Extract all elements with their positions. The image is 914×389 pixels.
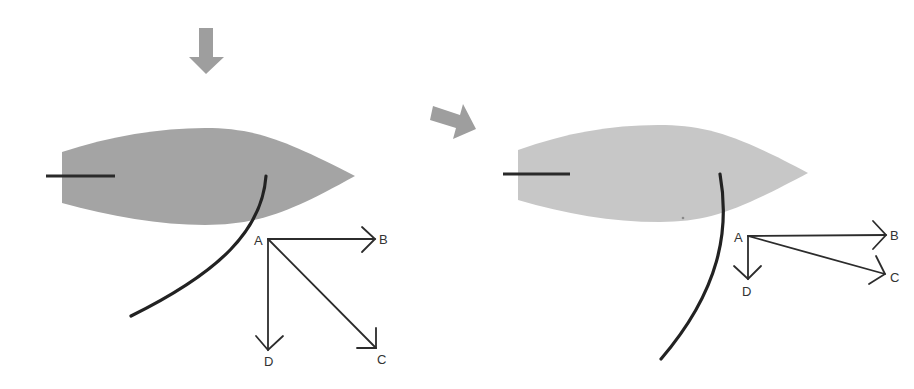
vector-diagram-after: A B C D: [734, 221, 899, 299]
vector-ab: [748, 235, 886, 236]
label-a: A: [254, 233, 263, 248]
label-d: D: [264, 354, 273, 369]
label-c: C: [377, 352, 386, 367]
label-b: B: [379, 232, 388, 247]
speck: [682, 217, 685, 220]
label-a: A: [734, 230, 743, 245]
label-d: D: [742, 284, 751, 299]
vector-ac: [748, 236, 885, 274]
panel-before: A B C D: [46, 28, 388, 369]
label-c: C: [890, 270, 899, 285]
diagram-canvas: A B C D A B C D: [0, 0, 914, 389]
panel-after: A B C D: [503, 125, 899, 359]
arrowhead-d: [256, 336, 283, 350]
down-arrow-icon: [189, 28, 224, 74]
vector-ac: [268, 239, 376, 348]
transition-arrow-icon: [430, 104, 476, 139]
vector-diagram-before: A B C D: [254, 227, 388, 369]
label-b: B: [890, 228, 899, 243]
